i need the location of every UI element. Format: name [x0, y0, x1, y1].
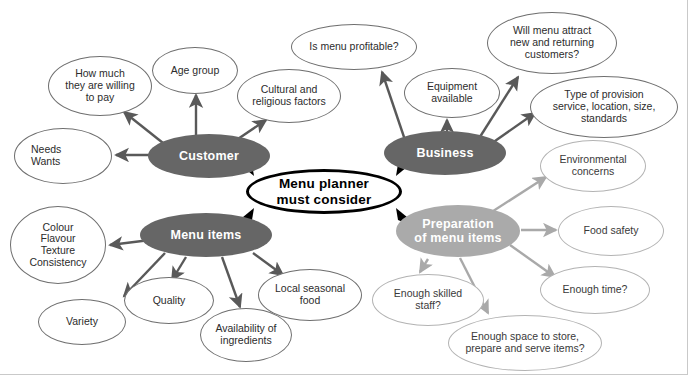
node-cultural-religious[interactable]: Cultural and religious factors	[237, 69, 341, 123]
node-menu-profitable-label: Is menu profitable?	[305, 41, 402, 53]
node-preparation[interactable]: Preparation of menu items	[396, 205, 520, 257]
node-environmental-concerns[interactable]: Environmental concerns	[540, 140, 646, 192]
node-centre-menu-planner[interactable]: Menu planner must consider	[246, 169, 402, 214]
node-local-seasonal-food-line2: food	[275, 295, 345, 307]
node-variety[interactable]: Variety	[38, 299, 126, 345]
node-menu-items[interactable]: Menu items	[140, 213, 272, 257]
node-equipment-available-line2: available	[427, 93, 477, 105]
node-enough-time[interactable]: Enough time?	[540, 266, 650, 314]
node-enough-space-line2: prepare and serve items?	[465, 343, 584, 355]
node-quality-label: Quality	[149, 295, 190, 307]
node-colour-flavour-texture-line3: Texture	[29, 245, 86, 257]
node-colour-flavour-texture-line4: Consistency	[29, 257, 86, 269]
node-quality[interactable]: Quality	[124, 277, 214, 324]
node-food-safety-label: Food safety	[580, 225, 643, 237]
node-food-safety[interactable]: Food safety	[558, 206, 664, 256]
node-customer-label: Customer	[179, 149, 239, 163]
node-enough-space[interactable]: Enough space to store, prepare and serve…	[448, 315, 602, 371]
node-age-group[interactable]: Age group	[152, 47, 238, 94]
node-menu-profitable[interactable]: Is menu profitable?	[291, 24, 417, 70]
node-attract-customers[interactable]: Will menu attract new and returning cust…	[487, 12, 617, 74]
node-local-seasonal-food[interactable]: Local seasonal food	[258, 269, 362, 321]
node-enough-skilled-staff-line2: staff?	[394, 300, 462, 312]
node-preparation-line2: of menu items	[414, 231, 501, 245]
node-enough-time-label: Enough time?	[559, 284, 632, 296]
diagram-canvas: factors.	[0, 0, 688, 375]
node-type-of-provision-line3: standards	[553, 113, 656, 125]
node-availability-ingredients-line2: ingredients	[215, 335, 276, 347]
node-attract-customers-line3: customers?	[510, 49, 594, 61]
node-customer[interactable]: Customer	[148, 134, 270, 178]
node-needs-wants[interactable]: Needs Wants	[14, 128, 112, 184]
node-business[interactable]: Business	[384, 131, 506, 175]
node-centre-line2: must consider	[277, 192, 372, 207]
node-centre-line1: Menu planner	[277, 176, 372, 191]
node-preparation-line1: Preparation	[414, 217, 501, 231]
node-type-of-provision[interactable]: Type of provision service, location, siz…	[530, 76, 678, 138]
node-business-label: Business	[416, 146, 473, 160]
node-colour-flavour-texture[interactable]: Colour Flavour Texture Consistency	[10, 206, 106, 284]
node-availability-ingredients[interactable]: Availability of ingredients	[200, 308, 292, 362]
node-equipment-available[interactable]: Equipment available	[404, 68, 500, 118]
node-cultural-religious-line2: religious factors	[252, 96, 326, 108]
node-environmental-concerns-line2: concerns	[559, 166, 626, 178]
node-enough-skilled-staff[interactable]: Enough skilled staff?	[372, 274, 484, 326]
node-menu-items-label: Menu items	[171, 228, 242, 242]
node-variety-label: Variety	[62, 316, 102, 328]
node-willing-to-pay-line3: to pay	[65, 92, 134, 104]
node-needs-wants-line2: Wants	[31, 156, 61, 168]
node-age-group-label: Age group	[167, 65, 223, 77]
node-willing-to-pay[interactable]: How much they are willing to pay	[48, 56, 152, 116]
